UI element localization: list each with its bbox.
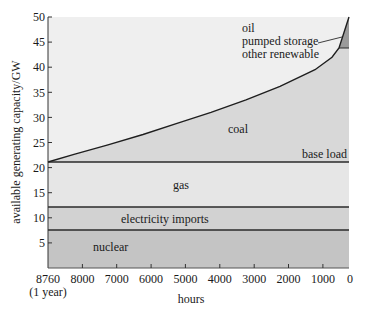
x-tick-label: 6000 xyxy=(139,272,163,286)
y-tick-label: 15 xyxy=(33,186,45,200)
label-pumped-storage: pumped storage xyxy=(242,34,318,48)
x-axis-title: hours xyxy=(178,292,205,306)
y-tick-label: 50 xyxy=(33,10,45,24)
x-tick-label: 3000 xyxy=(242,272,266,286)
label-gas: gas xyxy=(173,178,189,192)
load-duration-chart: 5 10 15 20 25 30 35 40 45 50 8760 8000 7… xyxy=(0,0,366,317)
x-tick-label: 1000 xyxy=(311,272,335,286)
y-tick-label: 30 xyxy=(33,111,45,125)
label-coal: coal xyxy=(228,122,249,136)
x-tick-label: 5000 xyxy=(173,272,197,286)
y-tick-label: 45 xyxy=(33,35,45,49)
x-tick-sublabel: (1 year) xyxy=(29,285,67,299)
y-tick-label: 40 xyxy=(33,60,45,74)
y-tick-label: 20 xyxy=(33,161,45,175)
x-tick-label: 2000 xyxy=(277,272,301,286)
y-tick-label: 35 xyxy=(33,86,45,100)
x-tick-label: 0 xyxy=(347,272,353,286)
x-tick-label: 8000 xyxy=(70,272,94,286)
label-other-renewable: other renewable xyxy=(242,47,319,61)
label-electricity-imports: electricity imports xyxy=(121,212,209,226)
y-tick-label: 5 xyxy=(39,236,45,250)
x-tick-label: 7000 xyxy=(105,272,129,286)
y-tick-label: 25 xyxy=(33,136,45,150)
x-tick-label: 4000 xyxy=(208,272,232,286)
y-tick-labels: 5 10 15 20 25 30 35 40 45 50 xyxy=(33,10,45,250)
y-tick-label: 10 xyxy=(33,211,45,225)
x-tick-label: 8760 xyxy=(36,272,60,286)
label-oil: oil xyxy=(242,21,255,35)
band-gas xyxy=(48,162,349,207)
label-base-load: base load xyxy=(302,147,347,161)
y-axis-title: available generating capacity/GW xyxy=(9,60,23,224)
label-nuclear: nuclear xyxy=(93,240,128,254)
